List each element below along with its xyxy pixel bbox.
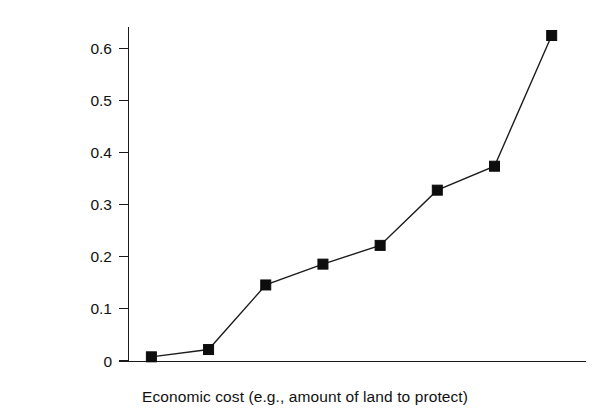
y-tick-label-0.5: 0.5 [90,92,112,109]
data-point-marker [375,240,385,250]
series-markers [146,30,556,361]
y-tick-label-0.4: 0.4 [90,144,112,161]
data-point-marker [261,280,271,290]
series-line [151,35,551,356]
data-point-marker [490,161,500,171]
data-point-marker [204,345,214,355]
x-axis-label: Economic cost (e.g., amount of land to p… [0,388,610,406]
data-point-marker [146,352,156,362]
line-chart-plot: 0.6 0.5 0.4 0.3 0.2 0.1 0 [0,0,610,418]
y-tick-label-0.1: 0.1 [90,300,112,317]
y-tick-label-0.6: 0.6 [90,40,112,57]
data-point-marker [318,259,328,269]
chart-figure: 0.6 0.5 0.4 0.3 0.2 0.1 0 Economic cost … [0,0,610,418]
data-point-marker [547,30,557,40]
data-series [146,30,556,361]
y-tick-label-0: 0 [103,353,112,370]
y-tick-label-0.3: 0.3 [90,196,112,213]
y-tick-label-0.2: 0.2 [90,248,112,265]
data-point-marker [432,185,442,195]
